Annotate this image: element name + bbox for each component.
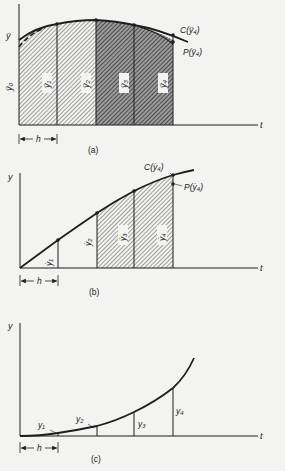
- axis-y-label-a: ÿ: [5, 31, 11, 41]
- axis-t-label-a: t: [260, 120, 263, 130]
- predictor-point-b: [171, 182, 175, 186]
- panel-c: y t y₁ y₂ y₃ y₄ h (c): [7, 321, 263, 464]
- strip-label-b-2: ẏ₂: [83, 238, 93, 247]
- axis-y-label-c: y: [7, 321, 13, 331]
- strip-label-4: ÿ₄: [158, 73, 168, 93]
- ordinate-label-c-3: y₃: [137, 419, 146, 429]
- axis-t-label-b: t: [260, 263, 263, 273]
- predictor-label-b: P(ẏ₄): [184, 182, 203, 192]
- step-label-b: h: [37, 276, 42, 286]
- area-strip-2: [57, 20, 96, 125]
- strip-label-b-1: ẏ₁: [44, 259, 54, 267]
- strip-label-3: ÿ₃: [119, 73, 129, 93]
- curve-c: [20, 358, 194, 436]
- strip-label-2: ÿ₂: [81, 73, 91, 93]
- step-label-a: h: [36, 134, 41, 144]
- strip-label-b-4: ẏ₄: [157, 225, 167, 245]
- strip-label-1: ÿ₁: [42, 73, 52, 93]
- axis-y0-label-a: ÿ₀: [4, 83, 14, 93]
- svg-text:ẏ₄: ẏ₄: [157, 233, 167, 242]
- caption-a: (a): [88, 145, 99, 155]
- corrector-label-a: C(ÿ₄): [180, 25, 200, 35]
- ordinate-label-c-2: y₂: [75, 414, 84, 424]
- area-strips-b: [97, 175, 173, 268]
- svg-text:ÿ₁: ÿ₁: [42, 81, 52, 90]
- panel-b: y t ẏ₁ ẏ₂ ẏ₃ ẏ₄ C(ẏ₄) P(ẏ₄) h (b): [7, 162, 263, 297]
- svg-text:ÿ₃: ÿ₃: [119, 80, 129, 90]
- corrector-label-b: C(ẏ₄): [144, 162, 164, 172]
- caption-b: (b): [89, 287, 100, 297]
- corrector-point-a: [171, 33, 175, 37]
- panel-a: ÿ ÿ₀ t ÿ₁ ÿ₂ ÿ₃ ÿ₄ C(ÿ₄) P(ÿ₄) h (a): [4, 4, 263, 155]
- predictor-label-a: P(ÿ₄): [183, 47, 202, 57]
- svg-text:ẏ₃: ẏ₃: [118, 233, 128, 242]
- step-label-c: h: [37, 443, 42, 453]
- predictor-point-a: [171, 40, 175, 44]
- axis-t-label-c: t: [260, 431, 263, 441]
- svg-text:ÿ₄: ÿ₄: [158, 80, 168, 90]
- area-strip-3: [96, 20, 134, 125]
- caption-c: (c): [91, 454, 101, 464]
- ordinate-label-c-1: y₁: [37, 420, 45, 430]
- ordinate-label-c-4: y₄: [175, 406, 184, 416]
- strip-label-b-3: ẏ₃: [118, 225, 128, 245]
- axis-y-label-b: y: [7, 172, 13, 182]
- integration-diagram: ÿ ÿ₀ t ÿ₁ ÿ₂ ÿ₃ ÿ₄ C(ÿ₄) P(ÿ₄) h (a): [0, 0, 285, 471]
- svg-text:ÿ₂: ÿ₂: [81, 80, 91, 90]
